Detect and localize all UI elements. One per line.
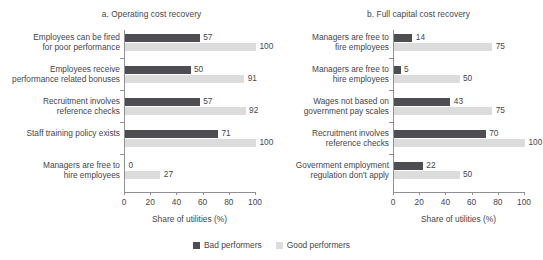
- bar-value-label: 75: [496, 105, 505, 115]
- bar-good-performers: [394, 43, 492, 51]
- chart-category-group: Staff training policy exists71100: [0, 129, 271, 161]
- bar-value-label: 75: [496, 41, 505, 51]
- chart-panel-a: a. Operating cost recovery Share of util…: [0, 0, 271, 236]
- category-label: Managers are free tohire employees: [0, 160, 120, 181]
- bar-bad-performers: [125, 66, 191, 74]
- chart-category-group: Employees can be firedfor poor performan…: [0, 33, 271, 65]
- legend-swatch-icon: [193, 242, 200, 249]
- x-axis-tick: [445, 192, 446, 195]
- category-label: Government employmentregulation don't ap…: [269, 160, 389, 181]
- x-axis-tick: [255, 192, 256, 195]
- chart-category-group: Recruitment involvesreference checks5792: [0, 97, 271, 129]
- y-axis-tick: [120, 58, 124, 59]
- x-axis-tick: [524, 192, 525, 195]
- legend-item-good-performers: Good performers: [276, 240, 350, 250]
- y-axis-tick: [389, 58, 393, 59]
- category-label: Staff training policy exists: [0, 128, 120, 138]
- x-axis-tick: [176, 192, 177, 195]
- category-label: Managers are free tohire employees: [269, 64, 389, 85]
- x-axis-tick: [498, 192, 499, 195]
- panel-a-x-axis-title: Share of utilities (%): [124, 214, 255, 224]
- category-label: Wages not based ongovernment pay scales: [269, 96, 389, 117]
- chart-category-group: Employees receiveperformance related bon…: [0, 65, 271, 97]
- category-label: Employees can be firedfor poor performan…: [0, 32, 120, 53]
- y-axis-tick: [389, 122, 393, 123]
- bar-value-label: 57: [203, 96, 212, 106]
- y-axis-tick: [120, 90, 124, 91]
- bar-value-label: 91: [248, 73, 257, 83]
- bar-bad-performers: [125, 130, 218, 138]
- x-axis-tick-label: 100: [240, 197, 270, 207]
- panel-b-title: b. Full capital cost recovery: [271, 9, 542, 19]
- bar-value-label: 22: [426, 160, 435, 170]
- bar-good-performers: [125, 43, 256, 51]
- bar-good-performers: [125, 171, 160, 179]
- chart-legend: Bad performers Good performers: [0, 240, 543, 250]
- chart-category-group: Managers are free tohire employees550: [271, 65, 542, 97]
- bar-value-label: 100: [529, 137, 543, 147]
- bar-value-label: 27: [164, 169, 173, 179]
- bar-value-label: 14: [416, 32, 425, 42]
- x-axis-tick: [419, 192, 420, 195]
- chart-category-group: Government employmentregulation don't ap…: [271, 161, 542, 193]
- x-axis-tick: [393, 192, 394, 195]
- legend-item-bad-performers: Bad performers: [193, 240, 262, 250]
- bar-value-label: 57: [203, 32, 212, 42]
- bar-bad-performers: [394, 98, 450, 106]
- x-axis-tick: [124, 192, 125, 195]
- bar-bad-performers: [125, 34, 200, 42]
- x-axis-tick-label: 100: [509, 197, 539, 207]
- bar-good-performers: [394, 171, 460, 179]
- bar-bad-performers: [394, 162, 423, 170]
- y-axis-tick: [389, 90, 393, 91]
- category-label: Managers are free tofire employees: [269, 32, 389, 53]
- bar-bad-performers: [394, 66, 401, 74]
- bar-good-performers: [394, 139, 525, 147]
- panel-a-plot: Share of utilities (%) Employees can be …: [0, 30, 271, 196]
- bar-value-label: 50: [194, 64, 203, 74]
- bar-value-label: 50: [463, 169, 472, 179]
- category-label: Recruitment involvesreference checks: [0, 96, 120, 117]
- bar-value-label: 5: [404, 64, 409, 74]
- bar-value-label: 71: [222, 128, 231, 138]
- bar-good-performers: [125, 107, 246, 115]
- category-label: Recruitment involvesreference checks: [269, 128, 389, 149]
- legend-label: Bad performers: [204, 240, 262, 250]
- bar-value-label: 70: [489, 128, 498, 138]
- x-axis-tick: [229, 192, 230, 195]
- bar-bad-performers: [394, 34, 412, 42]
- bar-value-label: 0: [129, 160, 134, 170]
- bar-bad-performers: [125, 98, 200, 106]
- bar-good-performers: [125, 75, 244, 83]
- y-axis-tick: [120, 154, 124, 155]
- chart-category-group: Managers are free tohire employees027: [0, 161, 271, 193]
- x-axis-tick: [150, 192, 151, 195]
- bar-bad-performers: [394, 130, 486, 138]
- panel-a-title: a. Operating cost recovery: [0, 9, 271, 19]
- bar-good-performers: [394, 107, 492, 115]
- bar-good-performers: [394, 75, 460, 83]
- legend-swatch-icon: [276, 242, 283, 249]
- chart-category-group: Wages not based ongovernment pay scales4…: [271, 97, 542, 129]
- chart-panel-b: b. Full capital cost recovery Share of u…: [271, 0, 542, 236]
- y-axis-tick: [389, 154, 393, 155]
- bar-good-performers: [125, 139, 256, 147]
- legend-label: Good performers: [287, 240, 350, 250]
- chart-category-group: Managers are free tofire employees1475: [271, 33, 542, 65]
- x-axis-tick: [472, 192, 473, 195]
- y-axis-tick: [120, 122, 124, 123]
- panel-b-plot: Share of utilities (%) Managers are free…: [271, 30, 542, 196]
- bar-value-label: 43: [454, 96, 463, 106]
- x-axis-tick: [203, 192, 204, 195]
- chart-category-group: Recruitment involvesreference checks7010…: [271, 129, 542, 161]
- bar-value-label: 92: [249, 105, 258, 115]
- bar-value-label: 50: [463, 73, 472, 83]
- category-label: Employees receiveperformance related bon…: [0, 64, 120, 85]
- panel-b-x-axis-title: Share of utilities (%): [393, 214, 524, 224]
